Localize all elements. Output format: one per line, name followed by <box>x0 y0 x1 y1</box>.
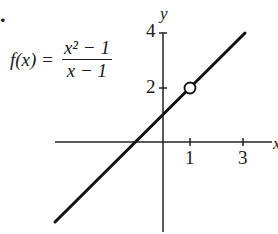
y-tick-label-4: 4 <box>146 20 156 42</box>
y-tick-label-2: 2 <box>146 76 156 98</box>
x-tick-label-1: 1 <box>185 147 195 169</box>
x-axis-name: x <box>273 134 278 154</box>
function-plot <box>0 0 278 234</box>
function-line <box>55 33 245 222</box>
hole-open-circle <box>185 83 196 94</box>
y-axis-name: y <box>160 4 168 24</box>
x-tick-label-3: 3 <box>238 147 248 169</box>
